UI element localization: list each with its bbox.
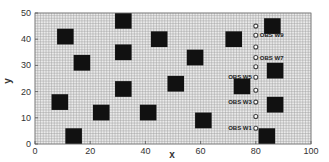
obstacle-square: [167, 76, 184, 92]
obstacle-square: [187, 50, 204, 66]
observation-well-marker: [254, 56, 258, 60]
well-label: OBS W5: [228, 74, 252, 80]
y-tick-label: 20: [21, 87, 31, 97]
well-label: OBS W1: [228, 125, 252, 131]
obstacle-square: [267, 63, 284, 79]
x-tick-label: 60: [196, 146, 206, 156]
x-tick-label: 20: [85, 146, 95, 156]
obstacle-square: [225, 31, 242, 47]
observation-well-marker: [254, 65, 258, 69]
x-tick-label: 100: [303, 146, 318, 156]
y-tick-label: 40: [21, 34, 31, 44]
y-tick-label: 10: [21, 113, 31, 123]
x-tick-label: 40: [140, 146, 150, 156]
obstacle-square: [140, 105, 157, 121]
obstacle-square: [151, 31, 168, 47]
obstacle-square: [65, 128, 82, 144]
obstacle-square: [93, 105, 110, 121]
x-tick-label: 80: [251, 146, 261, 156]
observation-well-marker: [254, 75, 258, 79]
y-tick-label: 0: [26, 139, 31, 149]
obstacle-square: [57, 29, 74, 45]
obstacle-square: [52, 94, 69, 110]
well-label: OBS W3: [228, 99, 252, 105]
obstacle-square: [195, 113, 212, 129]
y-tick-label: 50: [21, 8, 31, 18]
obstacle-well-map-chart: OBS W9OBS W7OBS W5OBS W3OBS W1 020406080…: [0, 0, 329, 162]
y-tick-label: 30: [21, 60, 31, 70]
obstacle-square: [259, 128, 276, 144]
well-label: OBS W9: [260, 32, 284, 38]
observation-well-marker: [254, 126, 258, 130]
observation-well-marker: [254, 100, 258, 104]
x-axis-label: x: [169, 149, 175, 160]
obstacle-square: [115, 44, 132, 60]
obstacle-square: [267, 97, 284, 113]
obstacle-square: [74, 55, 91, 71]
well-label: OBS W7: [260, 55, 284, 61]
obstacle-square: [234, 79, 251, 95]
observation-well-marker: [254, 24, 258, 28]
observation-well-marker: [254, 114, 258, 118]
y-axis-label: y: [2, 78, 13, 84]
obstacle-square: [115, 13, 132, 29]
observation-well-marker: [254, 88, 258, 92]
observation-well-marker: [254, 45, 258, 49]
x-tick-label: 0: [32, 146, 37, 156]
obstacle-square: [115, 81, 132, 97]
plot-area: OBS W9OBS W7OBS W5OBS W3OBS W1: [35, 13, 311, 144]
observation-well-marker: [254, 33, 258, 37]
